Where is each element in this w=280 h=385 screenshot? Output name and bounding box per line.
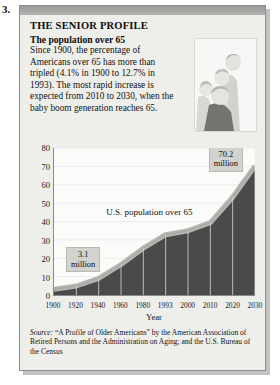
chart-plot-area: U.S. population over 65 3.1 million 70.2… [53, 148, 255, 296]
x-tick-2030: 2030 [248, 301, 263, 310]
source-label: Source: [30, 328, 53, 337]
series-label: U.S. population over 65 [106, 207, 192, 217]
x-tick-1900: 1900 [46, 301, 61, 310]
end-callout-line1: 70.2 [219, 150, 234, 159]
y-tick-0: 0 [28, 291, 50, 301]
y-tick-60: 60 [28, 180, 50, 190]
panel-body-text: Since 1900, the percentage of Americans … [30, 45, 180, 115]
start-callout-line2: million [71, 260, 95, 269]
x-tick-2000: 2000 [180, 301, 195, 310]
item-number: 3. [2, 3, 10, 15]
source-text: “A Profile of Older Americans” by the Am… [30, 328, 250, 356]
x-tick-2020: 2020 [225, 301, 240, 310]
y-tick-50: 50 [28, 199, 50, 209]
y-tick-30: 30 [28, 236, 50, 246]
y-tick-20: 20 [28, 254, 50, 264]
x-tick-2010: 2010 [203, 301, 218, 310]
y-tick-40: 40 [28, 217, 50, 227]
end-callout-line2: million [214, 159, 238, 168]
x-tick-1993: 1993 [158, 301, 173, 310]
senior-profile-panel: THE SENIOR PROFILE The population over 6… [19, 5, 266, 371]
end-callout: 70.2 million [209, 148, 243, 172]
panel-subhead: The population over 65 [30, 34, 125, 45]
x-tick-1940: 1940 [90, 301, 105, 310]
y-tick-80: 80 [28, 143, 50, 153]
source-citation: Source: “A Profile of Older Americans” b… [30, 328, 256, 356]
y-tick-10: 10 [28, 273, 50, 283]
x-tick-1980: 1980 [135, 301, 150, 310]
start-callout: 3.1 million [66, 247, 100, 272]
population-over-65-chart: U.S. population over 65 3.1 million 70.2… [28, 142, 259, 322]
x-tick-1960: 1960 [113, 301, 128, 310]
start-callout-line1: 3.1 [78, 250, 88, 259]
panel-header-bar [20, 6, 265, 15]
y-tick-70: 70 [28, 162, 50, 172]
x-tick-1920: 1920 [68, 301, 83, 310]
panel-headline: THE SENIOR PROFILE [30, 20, 148, 31]
x-axis-label: Year [53, 312, 255, 322]
family-photo [194, 38, 257, 132]
